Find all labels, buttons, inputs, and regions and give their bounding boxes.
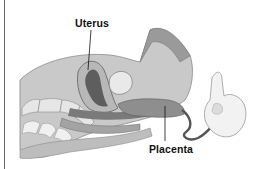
hand-shape bbox=[204, 72, 246, 137]
bladder bbox=[109, 71, 132, 94]
anatomy-illustration bbox=[0, 0, 263, 169]
finger-detail bbox=[212, 103, 223, 114]
uterus-label: Uterus bbox=[75, 17, 109, 29]
placenta-label: Placenta bbox=[149, 143, 193, 155]
placenta-shape bbox=[118, 99, 184, 118]
